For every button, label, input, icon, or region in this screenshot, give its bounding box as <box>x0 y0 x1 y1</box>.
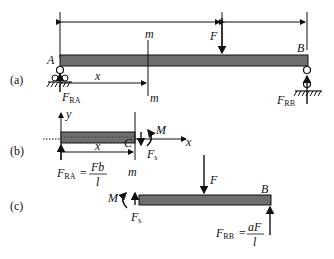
roller-support-icon <box>294 67 322 105</box>
moment-arrow-icon-c <box>123 193 127 208</box>
svg-text:=: = <box>80 166 87 180</box>
section-label-top: m <box>145 27 154 41</box>
point-b-label-c: B <box>261 182 269 196</box>
moment-label: M <box>155 123 167 137</box>
point-a-label: A <box>46 53 55 67</box>
pin-support-icon <box>47 67 72 93</box>
reaction-a-formula: FRA = Fb l <box>56 160 107 189</box>
panel-b-label: (b) <box>10 144 24 158</box>
shear-label-c: Fs <box>130 210 141 225</box>
svg-text:=: = <box>239 226 246 240</box>
x-axis-label: x <box>185 135 192 149</box>
x-label: x <box>94 69 101 83</box>
reaction-a-label: FRA <box>61 90 81 105</box>
reaction-b-label: FRB <box>276 93 295 108</box>
y-axis-label: y <box>65 107 72 121</box>
reaction-b-formula: FRB = aF l <box>215 220 264 249</box>
section-label-bottom: m <box>150 91 159 105</box>
panel-c: (c) F B Fs M FRB = aF l <box>10 155 271 249</box>
force-label-c: F <box>209 173 218 187</box>
panel-a-label: (a) <box>10 73 23 87</box>
panel-c-label: (c) <box>10 199 23 213</box>
shear-label: Fs <box>146 147 157 162</box>
point-c-label: C <box>124 136 133 150</box>
x-dim-label-b: x <box>94 139 101 153</box>
svg-text:FRA: FRA <box>56 166 76 181</box>
svg-text:l: l <box>253 235 257 249</box>
panel-a: F m m x A B (a) FRA FRB <box>10 12 322 108</box>
svg-text:l: l <box>96 175 100 189</box>
moment-label-c: M <box>107 191 119 205</box>
beam-a <box>60 55 308 66</box>
beam-segment-c <box>139 195 271 205</box>
panel-b: (b) y x C Fs M x m FRA = Fb l <box>10 107 192 189</box>
section-label-b: m <box>128 165 137 179</box>
svg-text:aF: aF <box>248 220 262 234</box>
svg-text:FRB: FRB <box>215 226 234 241</box>
point-b-label: B <box>297 41 305 55</box>
force-label: F <box>209 29 218 43</box>
beam-diagram: F m m x A B (a) FRA FRB <box>0 0 334 259</box>
moment-arrow-icon <box>147 130 151 146</box>
svg-text:Fb: Fb <box>90 160 104 174</box>
